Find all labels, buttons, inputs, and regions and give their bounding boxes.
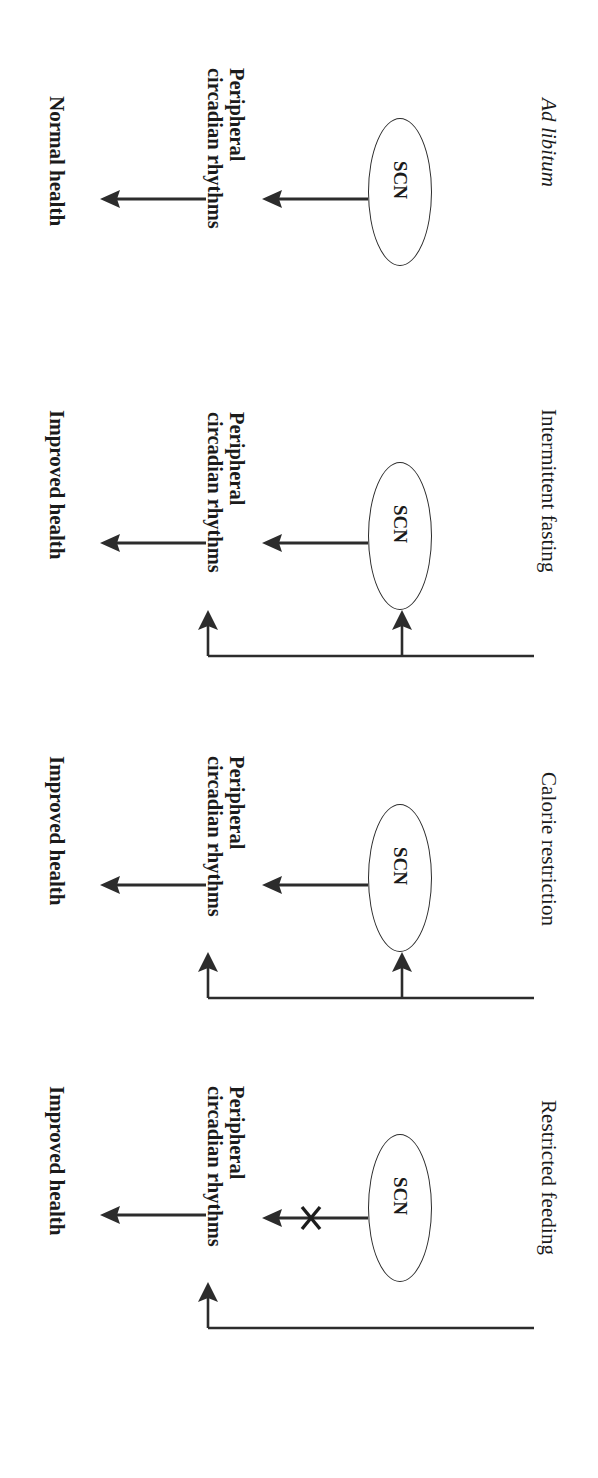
scn-node: SCN (368, 118, 432, 266)
arrow-scn-to-peripheral (262, 185, 370, 213)
arrow-peripheral-to-outcome (100, 185, 208, 213)
outcome-label: Improved health (45, 756, 68, 906)
panel-calorie-restriction: Calorie restriction SCN Peripheral circa… (0, 712, 598, 1068)
panel-title: Calorie restriction (537, 772, 560, 926)
peripheral-rhythms-line1: Peripheral (226, 756, 248, 849)
peripheral-rhythms-label: Peripheral circadian rhythms (204, 68, 248, 229)
peripheral-rhythms-label: Peripheral circadian rhythms (204, 412, 248, 573)
arrow-peripheral-to-outcome (100, 871, 208, 899)
peripheral-rhythms-line1: Peripheral (226, 412, 248, 505)
scn-label: SCN (389, 161, 411, 199)
panel-title: Restricted feeding (537, 1100, 560, 1255)
panel-restricted-feeding: Restricted feeding SCN Peripheral circad… (0, 1072, 598, 1478)
scn-node: SCN (368, 462, 432, 610)
scn-label: SCN (389, 847, 411, 885)
panel-title: Intermittent fasting (537, 409, 560, 573)
arrow-scn-to-peripheral (262, 871, 370, 899)
outcome-label: Normal health (45, 96, 68, 226)
scn-node: SCN (368, 1134, 432, 1282)
peripheral-rhythms-label: Peripheral circadian rhythms (204, 1086, 248, 1247)
scn-label: SCN (389, 1177, 411, 1215)
peripheral-rhythms-label: Peripheral circadian rhythms (204, 756, 248, 917)
feeding-baseline-branch (186, 1280, 536, 1342)
peripheral-rhythms-line1: Peripheral (226, 68, 248, 161)
feeding-baseline-branch (186, 608, 536, 670)
arrow-peripheral-to-outcome (100, 1201, 208, 1229)
figure-canvas: Ad libitum SCN Peripheral circadian rhyt… (0, 0, 598, 1478)
outcome-label: Improved health (45, 410, 68, 560)
scn-label: SCN (389, 505, 411, 543)
arrow-scn-to-peripheral-blocked (262, 1201, 370, 1235)
arrow-peripheral-to-outcome (100, 529, 208, 557)
outcome-label: Improved health (45, 1086, 68, 1236)
panel-ad-libitum: Ad libitum SCN Peripheral circadian rhyt… (0, 0, 598, 350)
panel-title: Ad libitum (537, 98, 560, 187)
scn-node: SCN (368, 804, 432, 952)
feeding-baseline-branch (186, 950, 536, 1012)
arrow-scn-to-peripheral (262, 529, 370, 557)
peripheral-rhythms-line1: Peripheral (226, 1086, 248, 1179)
panel-intermittent-fasting: Intermittent fasting SCN Peripheral circ… (0, 352, 598, 708)
